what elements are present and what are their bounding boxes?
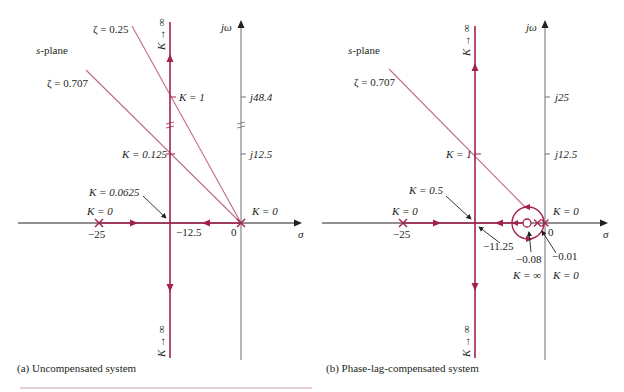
damping-line-zeta-025: [132, 26, 241, 223]
k-inf-up-label-a: K → ∞: [155, 18, 167, 51]
k1-label-a: K = 1: [178, 91, 205, 103]
locus-arrow-left-b: [495, 220, 503, 227]
panel-b-phase-lag: jω σ s-plane ζ = 0.707 K → ∞ K → ∞ K = 1…: [322, 20, 609, 375]
k-inf-down-label-a: K → ∞: [155, 325, 167, 358]
locus-arrow-down-a: [167, 284, 174, 292]
k-inf-down-label-b: K → ∞: [460, 325, 472, 358]
k0-right-label-a: K = 0: [251, 205, 278, 217]
s-plane-label-b: s-plane: [348, 44, 380, 56]
zeta-0707-label-a: ζ = 0.707: [47, 77, 89, 90]
breakaway-pointer-a: [143, 196, 166, 218]
damping-line-zeta-0707-a: [86, 70, 241, 223]
k0-left-label-a: K = 0: [86, 205, 113, 217]
tick-label-j125-b: j12.5: [553, 148, 578, 160]
tick-label-m1125-b: −11.25: [483, 240, 514, 252]
locus-arrow-right-a: [130, 220, 138, 227]
caption-b: (b) Phase-lag-compensated system: [326, 362, 479, 375]
imag-axis-arrow-a: [238, 20, 245, 28]
locus-arrow-inner-b: [512, 220, 518, 226]
locus-arrow-down-b: [472, 283, 479, 291]
zero-marker-m008-b: [523, 219, 531, 227]
tick-label-m25-a: −25: [88, 228, 106, 240]
tick-label-m125-a: −12.5: [176, 226, 202, 238]
imag-axis-arrow-b: [542, 20, 549, 28]
tick-label-j125-a: j12.5: [248, 148, 273, 160]
k-inf-up-label-b: K → ∞: [460, 24, 472, 57]
locus-arrow-circle-top-b: [523, 204, 530, 210]
zeta-0707-label-b: ζ = 0.707: [354, 76, 396, 89]
k0-right-label-b: K = 0: [552, 205, 579, 217]
locus-arrow-up-a: [167, 54, 174, 62]
root-locus-figure: jω σ s-plane ζ = 0.25 ζ = 0.707 K → ∞ K …: [0, 0, 624, 392]
jw-label-a: jω: [219, 21, 232, 33]
pole-value-label-b: −0.01: [552, 250, 577, 262]
tick-label-m25-b: −25: [393, 228, 411, 240]
zero-value-label-b: −0.08: [516, 253, 542, 265]
breakaway-pointer-b: [446, 196, 471, 219]
k0-pole-label-b: K = 0: [552, 269, 579, 281]
sigma-label-b: σ: [603, 228, 609, 240]
locus-arrow-right-b: [433, 220, 441, 227]
k0125-label-a: K = 0.125: [121, 148, 168, 160]
tick-label-j25-b: j25: [553, 91, 570, 103]
real-axis-arrow-b: [600, 220, 608, 227]
k00625-label-a: K = 0.0625: [88, 186, 140, 198]
k1-label-b: K = 1: [445, 148, 472, 160]
tick-label-0-b: 0: [548, 226, 554, 238]
real-axis-arrow-a: [294, 220, 302, 227]
s-plane-label-a: s-plane: [36, 44, 68, 56]
locus-arrow-up-b: [472, 63, 479, 71]
k-inf-zero-label-b: K = ∞: [512, 269, 541, 281]
panel-a-uncompensated: jω σ s-plane ζ = 0.25 ζ = 0.707 K → ∞ K …: [17, 18, 304, 375]
zero-pointer-b: [529, 232, 531, 252]
jw-label-b: jω: [524, 21, 537, 33]
tick-label-0-a: 0: [231, 226, 237, 238]
k0-left-label-b: K = 0: [391, 205, 418, 217]
k05-label-b: K = 0.5: [408, 184, 444, 196]
sigma-label-a: σ: [298, 228, 304, 240]
caption-a: (a) Uncompensated system: [17, 362, 137, 375]
zeta-025-label: ζ = 0.25: [93, 23, 129, 36]
locus-arrow-left-a: [202, 220, 210, 227]
tick-label-j484-a: j48.4: [248, 91, 273, 103]
